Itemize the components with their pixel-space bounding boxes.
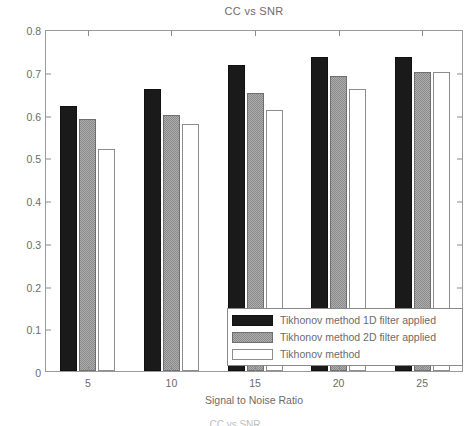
x-tick-mark (339, 31, 340, 36)
y-tick-mark (457, 116, 462, 117)
x-tick-mark (422, 31, 423, 36)
x-tick-label: 25 (416, 377, 428, 389)
x-tick-mark (422, 366, 423, 371)
clipped-footer-caption: CC vs SNR (0, 419, 470, 426)
x-tick-mark (88, 366, 89, 371)
y-tick-mark (457, 202, 462, 203)
x-axis-title: Signal to Noise Ratio (45, 394, 463, 406)
bar (79, 119, 96, 371)
legend-item[interactable]: Tikhonov method 2D filter applied (232, 329, 458, 345)
y-tick-mark (457, 287, 462, 288)
x-tick-label: 20 (333, 377, 345, 389)
bar (60, 106, 77, 371)
y-tick-label: 0.4 (26, 196, 41, 208)
legend-item[interactable]: Tikhonov method (232, 346, 458, 362)
legend-label: Tikhonov method 2D filter applied (280, 331, 436, 343)
x-tick-label: 10 (166, 377, 178, 389)
legend-swatch-icon (232, 332, 273, 343)
bar (182, 124, 199, 371)
x-tick-mark (171, 366, 172, 371)
y-tick-mark (46, 330, 51, 331)
y-tick-mark (46, 116, 51, 117)
legend-swatch-icon (232, 349, 273, 360)
legend-item[interactable]: Tikhonov method 1D filter applied (232, 312, 458, 328)
y-tick-mark (46, 287, 51, 288)
y-tick-mark (46, 159, 51, 160)
y-tick-mark (457, 73, 462, 74)
x-tick-label: 15 (249, 377, 261, 389)
y-tick-mark (457, 244, 462, 245)
x-tick-mark (88, 31, 89, 36)
bar (144, 89, 161, 371)
legend-label: Tikhonov method 1D filter applied (280, 314, 436, 326)
legend-label: Tikhonov method (280, 348, 360, 360)
y-tick-label: 0.8 (26, 25, 41, 37)
y-axis-title: Average Correlation Coefficient (6, 0, 20, 60)
chart-title: CC vs SNR (45, 5, 463, 17)
chart-legend[interactable]: Tikhonov method 1D filter appliedTikhono… (227, 308, 463, 366)
x-tick-mark (171, 31, 172, 36)
y-tick-mark (46, 202, 51, 203)
y-tick-mark (46, 244, 51, 245)
y-tick-label: 0.1 (26, 324, 41, 336)
y-tick-label: 0.5 (26, 153, 41, 165)
chart-figure: CC vs SNR Average Correlation Coefficien… (0, 0, 470, 426)
y-tick-label: 0.3 (26, 239, 41, 251)
y-tick-label: 0.2 (26, 282, 41, 294)
bar (163, 115, 180, 372)
y-tick-mark (46, 73, 51, 74)
y-tick-label: 0 (35, 367, 41, 379)
y-tick-label: 0.6 (26, 111, 41, 123)
y-axis-title-container: Average Correlation Coefficient (8, 30, 22, 372)
x-tick-mark (255, 366, 256, 371)
y-tick-mark (457, 159, 462, 160)
x-tick-label: 5 (85, 377, 91, 389)
legend-swatch-icon (232, 315, 273, 326)
y-tick-label: 0.7 (26, 68, 41, 80)
x-tick-mark (255, 31, 256, 36)
x-tick-mark (339, 366, 340, 371)
bar (98, 149, 115, 371)
